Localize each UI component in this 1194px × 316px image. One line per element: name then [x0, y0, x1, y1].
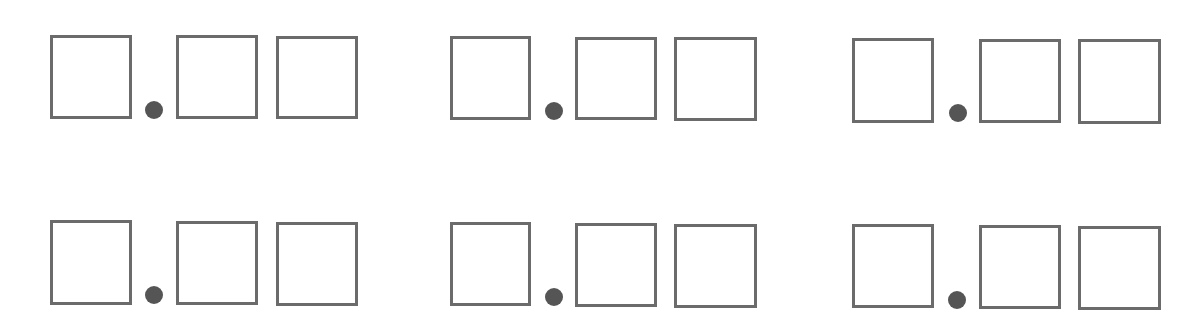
- ones-box[interactable]: [852, 38, 934, 123]
- tenths-box[interactable]: [176, 221, 258, 305]
- ones-box[interactable]: [50, 220, 132, 305]
- tenths-box[interactable]: [979, 225, 1061, 309]
- ones-box[interactable]: [852, 224, 934, 308]
- decimal-point-icon: [545, 102, 563, 120]
- hundredths-box[interactable]: [674, 224, 757, 308]
- hundredths-box[interactable]: [1078, 39, 1161, 124]
- decimal-point-icon: [949, 104, 967, 122]
- tenths-box[interactable]: [176, 35, 258, 119]
- decimal-point-icon: [545, 288, 563, 306]
- decimal-point-icon: [948, 291, 966, 309]
- tenths-box[interactable]: [575, 223, 657, 307]
- decimal-point-icon: [145, 286, 163, 304]
- decimal-point-icon: [145, 101, 163, 119]
- tenths-box[interactable]: [979, 39, 1061, 123]
- ones-box[interactable]: [450, 36, 531, 120]
- hundredths-box[interactable]: [276, 222, 358, 306]
- ones-box[interactable]: [450, 222, 531, 306]
- hundredths-box[interactable]: [276, 36, 358, 119]
- tenths-box[interactable]: [575, 37, 657, 120]
- ones-box[interactable]: [50, 35, 132, 119]
- hundredths-box[interactable]: [1078, 226, 1161, 310]
- hundredths-box[interactable]: [674, 37, 757, 121]
